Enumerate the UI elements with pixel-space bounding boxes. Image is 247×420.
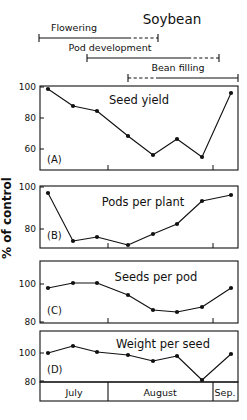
panel-b-pods-per-plant: Pods per plant (B) 100 80 (19, 182, 238, 248)
panel-a-ytick-80: 80 (25, 113, 37, 123)
panel-c-seeds-per-pod: Seeds per pod (C) 100 80 (19, 261, 238, 327)
panel-a-seed-yield: Seed yield (A) 100 80 60 (19, 82, 238, 170)
month-axis-strip: July August Sep. (40, 382, 238, 401)
panel-c-point (151, 308, 155, 312)
panel-d-point (126, 353, 130, 357)
panel-c-point (95, 281, 99, 285)
panel-a-month-ticks (108, 165, 213, 170)
panel-c-point (229, 286, 233, 290)
panel-a-point (175, 137, 179, 141)
panel-d-point (71, 344, 75, 348)
panel-a-point (46, 87, 50, 91)
panel-b-point (200, 199, 204, 203)
panel-c-point (71, 281, 75, 285)
panel-c-title: Seeds per pod (115, 270, 198, 284)
month-label-august: August (143, 387, 177, 398)
panel-a-point (200, 155, 204, 159)
panel-a-point (126, 134, 130, 138)
panel-d-letter: (D) (47, 364, 63, 375)
panel-b-point (126, 243, 130, 247)
panel-a-letter: (A) (47, 154, 62, 165)
panel-d-point (151, 359, 155, 363)
panel-d-point (95, 350, 99, 354)
panel-c-month-ticks (108, 318, 213, 323)
panel-c-point (200, 305, 204, 309)
phase-label-flowering: Flowering (51, 22, 97, 33)
panel-b-point (175, 222, 179, 226)
panel-d-ytick-100: 100 (19, 348, 36, 358)
panel-a-ytick-100: 100 (19, 82, 36, 92)
panel-d-point (175, 354, 179, 358)
panel-d-series-line (48, 346, 231, 380)
panel-c-point (126, 293, 130, 297)
month-label-sep: Sep. (215, 387, 236, 398)
panel-d-point (46, 351, 50, 355)
panel-b-point (46, 191, 50, 195)
panel-d-weight-per-seed: Weight per seed (D) 100 80 (19, 331, 238, 387)
figure-canvas: Soybean Flowering Pod development (0, 0, 247, 420)
panel-b-point (71, 239, 75, 243)
panel-c-letter: (C) (47, 305, 62, 316)
panel-d-title: Weight per seed (116, 337, 210, 351)
panel-c-ytick-100: 100 (19, 279, 36, 289)
panel-a-point (95, 109, 99, 113)
y-axis-title: % of control (0, 177, 14, 259)
panel-b-point (95, 235, 99, 239)
panel-a-ytick-60: 60 (25, 144, 37, 154)
panel-c-point (175, 310, 179, 314)
panel-a-point (151, 153, 155, 157)
panel-b-point (229, 193, 233, 197)
panel-b-point (151, 232, 155, 236)
panel-d-ytick-80: 80 (25, 377, 37, 387)
panel-c-ytick-80: 80 (25, 317, 37, 327)
month-label-july: July (64, 387, 82, 398)
panel-c-markers (46, 281, 233, 314)
panel-b-title: Pods per plant (102, 195, 185, 209)
panel-b-ytick-100: 100 (19, 182, 36, 192)
panel-a-point (229, 91, 233, 95)
phase-bar-flowering: Flowering (39, 22, 158, 42)
panel-d-point (229, 352, 233, 356)
phase-bar-bean-filling: Bean filling (128, 62, 238, 82)
phase-label-bean-filling: Bean filling (151, 62, 204, 73)
panel-b-letter: (B) (47, 230, 62, 241)
phase-bar-pod-development: Pod development (69, 42, 219, 62)
phase-label-pod-development: Pod development (69, 42, 152, 53)
phenology-phase-bars: Flowering Pod development Bean filling (39, 22, 238, 82)
species-title: Soybean (143, 11, 202, 27)
panel-c-point (46, 286, 50, 290)
panel-a-title: Seed yield (109, 93, 169, 107)
panel-b-ytick-80: 80 (25, 224, 37, 234)
panel-a-point (71, 104, 75, 108)
soybean-response-figure: Soybean Flowering Pod development (0, 0, 247, 420)
